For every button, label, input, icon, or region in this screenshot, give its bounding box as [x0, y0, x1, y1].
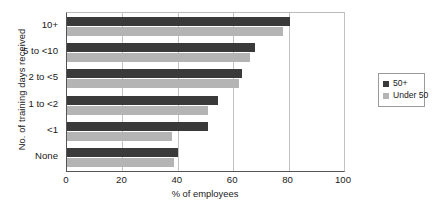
x-gridline [122, 13, 123, 171]
bar-50plus [67, 43, 255, 52]
legend-item-under50: Under 50 [383, 90, 421, 101]
bar-under50 [67, 79, 239, 88]
y-tick-label: 10+ [42, 19, 58, 31]
bar-under50 [67, 158, 174, 167]
bar-group [67, 148, 344, 167]
bar-50plus [67, 148, 178, 157]
x-tick-label: 20 [116, 174, 127, 185]
bar-under50 [67, 53, 250, 62]
bar-under50 [67, 27, 283, 36]
y-tick-label: 2 to <5 [28, 71, 58, 83]
x-gridline [289, 13, 290, 171]
bar-group [67, 43, 344, 62]
y-tick-label: None [35, 150, 58, 162]
legend-item-50plus: 50+ [383, 78, 421, 89]
bar-under50 [67, 132, 172, 141]
bar-group [67, 122, 344, 141]
bar-group [67, 69, 344, 88]
x-tick-labels: 020406080100 [66, 171, 344, 187]
bar-50plus [67, 96, 218, 105]
x-tick-label: 100 [335, 174, 351, 185]
y-tick-label: <1 [47, 124, 58, 136]
bar-50plus [67, 17, 290, 26]
plot-area [66, 12, 345, 172]
bar-50plus [67, 122, 208, 131]
x-gridline [178, 13, 179, 171]
bar-group [67, 96, 344, 115]
x-tick-label: 80 [282, 174, 293, 185]
y-tick-label: 1 to <2 [28, 98, 58, 110]
x-gridline [233, 13, 234, 171]
legend-swatch-icon [383, 81, 389, 87]
x-tick-label: 40 [171, 174, 182, 185]
chart-legend: 50+ Under 50 [378, 73, 425, 107]
legend-swatch-icon [383, 93, 389, 99]
x-tick-label: 60 [227, 174, 238, 185]
y-tick-label: 5 to <10 [23, 45, 58, 57]
x-gridline [344, 13, 345, 171]
x-tick-label: 0 [63, 174, 68, 185]
legend-item-label: 50+ [393, 78, 408, 89]
y-tick-labels: 10+ 5 to <10 2 to <5 1 to <2 <1 None [0, 12, 62, 170]
bar-group [67, 17, 344, 36]
bar-50plus [67, 69, 242, 78]
bar-under50 [67, 106, 208, 115]
legend-item-label: Under 50 [393, 90, 428, 101]
chart-figure: No. of training days received 10+ 5 to <… [0, 0, 433, 212]
x-axis-title: % of employees [66, 188, 344, 199]
